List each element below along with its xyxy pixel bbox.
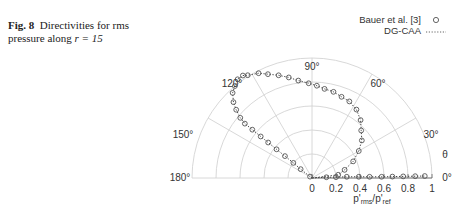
data-point-marker xyxy=(266,140,271,145)
data-point-marker xyxy=(298,167,303,172)
polar-grid xyxy=(192,58,432,178)
angle-tick-label: 60° xyxy=(370,78,385,89)
data-point-marker xyxy=(354,107,359,112)
radial-tick-label: 0.2 xyxy=(329,183,343,194)
data-point-marker xyxy=(250,127,255,132)
data-point-marker xyxy=(231,100,236,105)
angle-tick-label: 90° xyxy=(304,61,319,72)
angle-tick-label: 0° xyxy=(442,172,452,183)
radial-tick-label: 0.8 xyxy=(401,183,415,194)
angle-tick-label: 120° xyxy=(222,78,243,89)
polar-plot: 00.20.40.60.810°30°60°90°120°150°180°θp'… xyxy=(0,0,453,205)
radial-tick-label: 1 xyxy=(429,183,435,194)
angle-tick-label: 150° xyxy=(173,129,194,140)
data-point-marker xyxy=(286,75,291,80)
data-point-marker xyxy=(242,121,247,126)
radial-axis-label: p'rms/p'ref xyxy=(353,193,391,205)
radial-tick-label: 0 xyxy=(309,183,315,194)
data-point-marker xyxy=(306,81,311,86)
angle-tick-label: 180° xyxy=(170,172,191,183)
theta-label: θ xyxy=(442,149,448,160)
data-point-marker xyxy=(283,154,288,159)
angle-tick-label: 30° xyxy=(423,129,438,140)
